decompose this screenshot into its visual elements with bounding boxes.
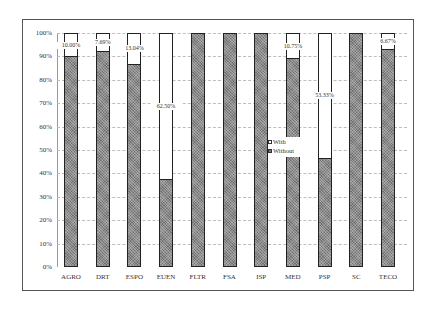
x-tick-label: MED	[278, 273, 308, 281]
x-tick-label: TECO	[373, 273, 403, 281]
legend-swatch-with-icon	[268, 140, 272, 144]
x-tick-label: FLTR	[183, 273, 213, 281]
y-tick-label: 60%	[22, 123, 52, 131]
data-label: 53.33%	[310, 92, 340, 99]
y-tick-label: 70%	[22, 99, 52, 107]
y-tick-label: 40%	[22, 169, 52, 177]
bar-isp	[254, 33, 268, 267]
x-tick-label: DRT	[88, 273, 118, 281]
y-tick-label: 90%	[22, 52, 52, 60]
legend-item-with: With	[268, 137, 318, 146]
y-tick-label: 20%	[22, 216, 52, 224]
legend: With Without	[268, 137, 318, 157]
data-label: 6.67%	[373, 38, 403, 45]
bar-sc	[349, 33, 363, 267]
bar-segment-without	[286, 58, 300, 267]
bar-drt	[96, 33, 110, 267]
data-label: 13.04%	[119, 45, 149, 52]
bar-segment-without	[318, 158, 332, 267]
y-tick-label: 0%	[22, 263, 52, 271]
bar-segment-without	[96, 51, 110, 267]
x-tick-label: EUEN	[151, 273, 181, 281]
bar-fsa	[223, 33, 237, 267]
bar-fltr	[191, 33, 205, 267]
bar-segment-without	[64, 56, 78, 267]
data-label: 10.00%	[56, 42, 86, 49]
data-label: 10.75%	[278, 43, 308, 50]
bar-segment-without	[191, 33, 205, 267]
y-tick-label: 30%	[22, 193, 52, 201]
bar-teco	[381, 33, 395, 267]
bar-psp	[318, 33, 332, 267]
legend-swatch-without-icon	[268, 149, 272, 153]
x-tick-label: PSP	[310, 273, 340, 281]
bar-agro	[64, 33, 78, 267]
bar-segment-without	[127, 64, 141, 267]
x-tick-label: ISP	[246, 273, 276, 281]
x-tick-label: FSA	[215, 273, 245, 281]
legend-item-without: Without	[268, 146, 318, 155]
data-label: 7.69%	[88, 39, 118, 46]
bar-segment-without	[381, 49, 395, 267]
data-label: 62.50%	[151, 103, 181, 110]
bar-espo	[127, 33, 141, 267]
y-tick-label: 100%	[22, 29, 52, 37]
y-tick-label: 80%	[22, 76, 52, 84]
y-tick-label: 50%	[22, 146, 52, 154]
x-tick-label: ESPO	[119, 273, 149, 281]
bar-segment-without	[159, 179, 173, 267]
legend-label-without: Without	[273, 147, 294, 154]
plot-area: 0%10%20%30%40%50%60%70%80%90%100% 10.00%…	[57, 33, 407, 267]
legend-label-with: With	[273, 138, 286, 145]
bar-euen	[159, 33, 173, 267]
bar-segment-without	[223, 33, 237, 267]
y-tick-label: 10%	[22, 240, 52, 248]
bar-segment-without	[349, 33, 363, 267]
x-tick-label: AGRO	[56, 273, 86, 281]
bar-segment-without	[254, 33, 268, 267]
x-tick-label: SC	[341, 273, 371, 281]
